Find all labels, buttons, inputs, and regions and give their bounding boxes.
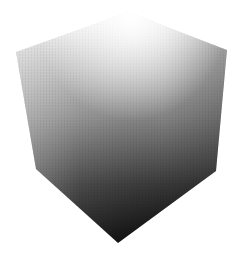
cube — [16, 12, 227, 243]
cube-scene — [0, 0, 241, 256]
cube-top-highlight — [16, 12, 227, 243]
